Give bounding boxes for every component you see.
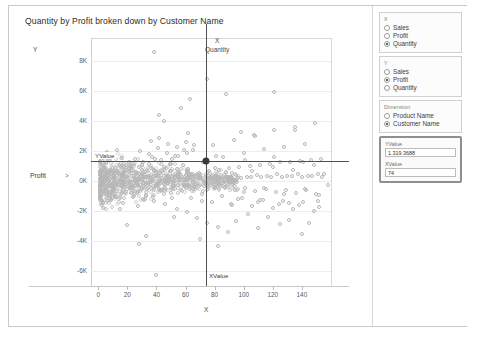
scatter-point[interactable] bbox=[198, 237, 202, 241]
scatter-point[interactable] bbox=[216, 244, 220, 248]
scatter-point[interactable] bbox=[256, 226, 260, 230]
scatter-point[interactable] bbox=[326, 183, 330, 187]
scatter-point[interactable] bbox=[102, 191, 106, 195]
scatter-point[interactable] bbox=[224, 184, 228, 188]
scatter-point[interactable] bbox=[290, 174, 294, 178]
x-reference-line[interactable] bbox=[206, 24, 207, 286]
scatter-point[interactable] bbox=[228, 188, 232, 192]
scatter-point[interactable] bbox=[129, 177, 133, 181]
highlighted-data-point[interactable] bbox=[202, 157, 209, 164]
scatter-point[interactable] bbox=[98, 162, 102, 166]
scatter-point[interactable] bbox=[104, 201, 108, 205]
scatter-point[interactable] bbox=[303, 142, 307, 146]
radio-selected-icon[interactable] bbox=[384, 41, 390, 47]
scatter-point[interactable] bbox=[248, 164, 252, 168]
scatter-point[interactable] bbox=[240, 196, 244, 200]
scatter-point[interactable] bbox=[169, 191, 173, 195]
scatter-point[interactable] bbox=[152, 50, 156, 54]
scatter-point[interactable] bbox=[277, 202, 281, 206]
scatter-point[interactable] bbox=[300, 232, 304, 236]
scatter-point[interactable] bbox=[149, 176, 153, 180]
scatter-point[interactable] bbox=[188, 97, 192, 101]
scatter-point[interactable] bbox=[186, 131, 190, 135]
scatter-point[interactable] bbox=[317, 205, 321, 209]
scatter-point[interactable] bbox=[115, 178, 119, 182]
scatter-point[interactable] bbox=[162, 119, 166, 123]
scatter-point[interactable] bbox=[310, 174, 314, 178]
scatter-point[interactable] bbox=[110, 182, 114, 186]
scatter-point[interactable] bbox=[183, 190, 187, 194]
scatter-point[interactable] bbox=[167, 177, 171, 181]
scatter-point[interactable] bbox=[312, 163, 316, 167]
scatter-point[interactable] bbox=[183, 177, 187, 181]
scatter-point[interactable] bbox=[107, 171, 111, 175]
scatter-point[interactable] bbox=[317, 193, 321, 197]
x-radio-quantity[interactable]: Quantity bbox=[384, 40, 457, 47]
scatter-point[interactable] bbox=[316, 199, 320, 203]
scatter-point[interactable] bbox=[271, 165, 275, 169]
scatter-point[interactable] bbox=[253, 134, 257, 138]
scatter-point[interactable] bbox=[226, 178, 230, 182]
scatter-point[interactable] bbox=[165, 151, 169, 155]
scatter-point[interactable] bbox=[253, 189, 257, 193]
scatter-point[interactable] bbox=[313, 121, 317, 125]
scatter-point[interactable] bbox=[132, 164, 136, 168]
yvalue-input[interactable]: 1.319.3688 bbox=[385, 148, 456, 157]
scatter-point[interactable] bbox=[178, 178, 182, 182]
scatter-point[interactable] bbox=[222, 173, 226, 177]
scatter-point[interactable] bbox=[130, 191, 134, 195]
x-radio-profit[interactable]: Profit bbox=[384, 32, 457, 39]
scatter-point[interactable] bbox=[104, 207, 108, 211]
scatter-point[interactable] bbox=[166, 142, 170, 146]
scatter-point[interactable] bbox=[184, 140, 188, 144]
scatter-point[interactable] bbox=[218, 177, 222, 181]
y-reference-line[interactable] bbox=[91, 161, 349, 162]
radio-unselected-icon[interactable] bbox=[384, 25, 390, 31]
scatter-point[interactable] bbox=[212, 185, 216, 189]
scatter-point[interactable] bbox=[272, 90, 276, 94]
scatter-point[interactable] bbox=[243, 186, 247, 190]
scatter-point[interactable] bbox=[258, 163, 262, 167]
scatter-point[interactable] bbox=[282, 145, 286, 149]
scatter-point[interactable] bbox=[136, 204, 140, 208]
scatter-point[interactable] bbox=[195, 216, 199, 220]
scatter-point[interactable] bbox=[170, 196, 174, 200]
plot-area[interactable]: YValueXValue bbox=[91, 38, 331, 286]
scatter-point[interactable] bbox=[187, 187, 191, 191]
scatter-point[interactable] bbox=[173, 162, 177, 166]
scatter-point[interactable] bbox=[124, 190, 128, 194]
scatter-point[interactable] bbox=[121, 201, 125, 205]
scatter-point[interactable] bbox=[262, 186, 266, 190]
scatter-point[interactable] bbox=[214, 154, 218, 158]
radio-unselected-icon[interactable] bbox=[384, 69, 390, 75]
scatter-point[interactable] bbox=[110, 205, 114, 209]
scatter-point[interactable] bbox=[280, 175, 284, 179]
scatter-point[interactable] bbox=[250, 204, 254, 208]
scatter-point[interactable] bbox=[195, 186, 199, 190]
scatter-point[interactable] bbox=[157, 136, 161, 140]
scatter-point[interactable] bbox=[138, 149, 142, 153]
scatter-point[interactable] bbox=[287, 218, 291, 222]
radio-unselected-icon[interactable] bbox=[384, 33, 390, 39]
y-radio-sales[interactable]: Sales bbox=[384, 68, 457, 75]
scatter-point[interactable] bbox=[221, 155, 225, 159]
scatter-point[interactable] bbox=[107, 193, 111, 197]
scatter-point[interactable] bbox=[249, 175, 253, 179]
scatter-point[interactable] bbox=[271, 206, 275, 210]
scatter-point[interactable] bbox=[134, 200, 138, 204]
scatter-point[interactable] bbox=[144, 234, 148, 238]
scatter-point[interactable] bbox=[157, 113, 161, 117]
radio-selected-icon[interactable] bbox=[384, 121, 390, 127]
dimension-radio-product-name[interactable]: Product Name bbox=[384, 112, 457, 119]
radio-unselected-icon[interactable] bbox=[384, 113, 390, 119]
scatter-point[interactable] bbox=[232, 138, 236, 142]
scatter-point[interactable] bbox=[274, 190, 278, 194]
scatter-point[interactable] bbox=[162, 192, 166, 196]
scatter-point[interactable] bbox=[154, 273, 158, 277]
scatter-point[interactable] bbox=[224, 92, 228, 96]
scatter-point[interactable] bbox=[301, 200, 305, 204]
scatter-point[interactable] bbox=[242, 190, 246, 194]
scatter-point[interactable] bbox=[122, 196, 126, 200]
scatter-point[interactable] bbox=[303, 187, 307, 191]
scatter-point[interactable] bbox=[192, 143, 196, 147]
